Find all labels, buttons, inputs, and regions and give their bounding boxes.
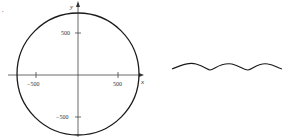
y-axis-label: y xyxy=(69,3,74,11)
y-tick-label-neg500: −500 xyxy=(56,114,68,120)
part-marker: . xyxy=(2,7,4,13)
x-tick-label-500: 500 xyxy=(113,81,122,87)
x-tick-label-neg500: −500 xyxy=(27,81,39,87)
y-axis-arrow-icon xyxy=(76,1,80,7)
x-axis-label: x xyxy=(140,78,145,86)
figure-canvas: . x y −500 500 500 −500 xyxy=(0,0,282,137)
x-axis-arrow-icon xyxy=(139,73,144,77)
y-tick-label-500: 500 xyxy=(61,30,70,36)
left-plot: x y −500 500 500 −500 xyxy=(8,1,145,137)
right-plot xyxy=(172,63,282,70)
wave-curve xyxy=(172,63,282,70)
